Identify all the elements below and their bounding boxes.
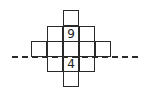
grid-cell-number: 4 [63,56,79,72]
grid-cell [47,41,63,57]
dashed-symmetry-line-overlay [12,56,138,58]
grid-cell [31,41,47,57]
grid-cell [79,56,95,72]
grid-cell [47,26,63,42]
grid-cell [63,71,79,87]
grid-cell [79,41,95,57]
grid-cell [63,41,79,57]
grid-cell [95,41,111,57]
grid-cell-number: 9 [63,26,79,42]
grid-cell [79,26,95,42]
grid-cell [63,10,79,26]
grid-cell [47,56,63,72]
